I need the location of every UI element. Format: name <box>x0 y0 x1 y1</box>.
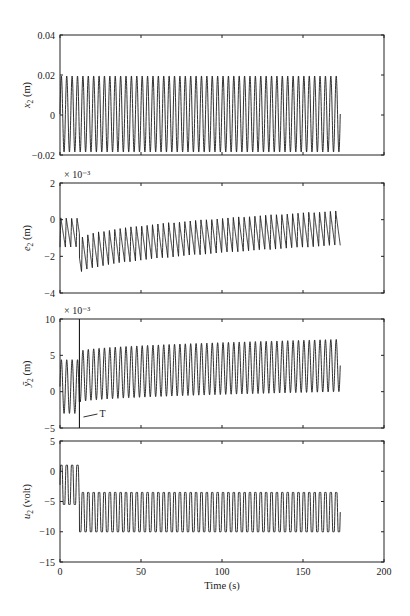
y-tick-label: −10 <box>39 526 55 537</box>
panel-2: −4−202× 10⁻³e2 (m) <box>21 169 384 299</box>
y-tick-label: 5 <box>50 436 55 447</box>
y-tick-label: 5 <box>50 350 55 361</box>
signal-line <box>60 465 340 532</box>
y-tick-label: 0 <box>50 214 55 225</box>
annotation-T: T <box>99 408 105 419</box>
y-tick-label: −4 <box>44 288 55 299</box>
y-tick-label: 0 <box>50 466 55 477</box>
y-tick-label: −15 <box>39 557 55 568</box>
signal-line <box>60 339 340 413</box>
y-tick-label: 0 <box>50 386 55 397</box>
panel-3: −50510× 10⁻³ỹ2 (m)T <box>21 305 384 434</box>
x-tick-label: 200 <box>377 566 392 577</box>
y-tick-label: −5 <box>44 496 55 507</box>
panel-4: −15−10−505u2 (volt)050100150200 <box>21 436 392 578</box>
y-tick-label: 10 <box>45 314 55 325</box>
y-tick-label: 0 <box>50 110 55 121</box>
x-tick-label: 0 <box>58 566 63 577</box>
y-axis-label: e2 (m) <box>21 224 35 251</box>
signal-line <box>60 211 340 272</box>
y-tick-label: 0.04 <box>38 30 56 41</box>
y-tick-label: 2 <box>50 178 55 189</box>
figure: −0.0200.020.04x2 (m)−4−202× 10⁻³e2 (m)−5… <box>0 0 410 616</box>
signal-line <box>60 76 340 152</box>
y-axis-label: x2 (m) <box>21 81 35 109</box>
y-tick-label: −2 <box>44 251 55 262</box>
y-tick-label: −5 <box>44 423 55 434</box>
x-tick-label: 50 <box>136 566 146 577</box>
y-axis-label: u2 (volt) <box>21 484 35 519</box>
exponent-label: × 10⁻³ <box>64 169 90 180</box>
x-tick-label: 100 <box>215 566 230 577</box>
exponent-label: × 10⁻³ <box>64 305 90 316</box>
panel-1: −0.0200.020.04x2 (m) <box>21 30 384 161</box>
x-tick-label: 150 <box>296 566 311 577</box>
y-axis-label: ỹ2 (m) <box>21 360 35 388</box>
y-tick-label: −0.02 <box>32 150 55 161</box>
x-axis-label: Time (s) <box>204 580 240 592</box>
y-tick-label: 0.02 <box>38 70 56 81</box>
